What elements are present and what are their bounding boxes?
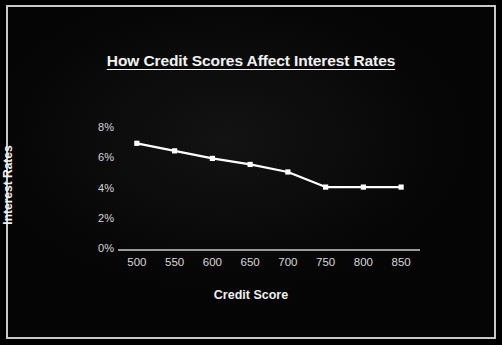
data-point-marker	[172, 148, 177, 153]
x-tick-label: 800	[343, 256, 383, 268]
chart-title: How Credit Scores Affect Interest Rates	[0, 52, 502, 70]
data-point-marker	[399, 184, 404, 189]
x-tick-label: 750	[306, 256, 346, 268]
y-tick-label: 0%	[80, 243, 114, 254]
x-tick-label: 850	[381, 256, 421, 268]
line-series	[118, 120, 420, 250]
x-tick-label: 500	[117, 256, 157, 268]
data-point-marker	[248, 162, 253, 167]
y-tick-label: 2%	[80, 213, 114, 224]
y-tick-label: 6%	[80, 152, 114, 163]
x-tick-label: 650	[230, 256, 270, 268]
x-tick-label: 700	[268, 256, 308, 268]
data-point-marker	[210, 156, 215, 161]
data-point-marker	[134, 141, 139, 146]
x-axis-title: Credit Score	[0, 288, 502, 302]
x-tick-label: 550	[155, 256, 195, 268]
y-tick-label: 4%	[80, 183, 114, 194]
data-point-marker	[323, 184, 328, 189]
y-axis-title: Interest Rates	[0, 120, 17, 250]
y-tick-label: 8%	[80, 122, 114, 133]
plot-area	[118, 120, 420, 250]
data-point-marker	[361, 184, 366, 189]
x-axis-tick-labels: 500550600650700750800850	[0, 256, 502, 272]
chart-frame: How Credit Scores Affect Interest Rates …	[0, 0, 502, 345]
x-tick-label: 600	[192, 256, 232, 268]
data-point-marker	[285, 169, 290, 174]
